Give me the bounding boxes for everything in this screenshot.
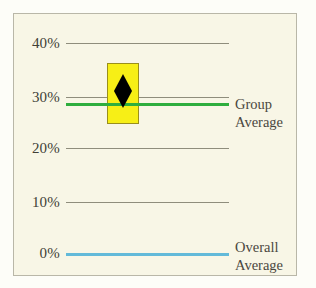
overall-average-label: Overall Average — [235, 239, 283, 274]
gridline-10 — [66, 202, 229, 203]
diamond-lower-half — [114, 91, 132, 108]
group-average-line — [66, 103, 229, 106]
y-axis-label-40: 40% — [14, 36, 60, 51]
chart-panel: 40% 30% 20% 10% 0% Group Average Over — [13, 13, 297, 276]
y-axis-label-20: 20% — [14, 141, 60, 156]
chart-container: 40% 30% 20% 10% 0% Group Average Over — [0, 0, 316, 288]
overall-average-line — [66, 253, 229, 256]
diamond-upper-half — [114, 74, 132, 91]
y-axis-label-30: 30% — [14, 90, 60, 105]
gridline-30 — [66, 97, 229, 98]
plot-area: 40% 30% 20% 10% 0% Group Average Over — [14, 14, 298, 277]
gridline-40 — [66, 43, 229, 44]
group-average-label: Group Average — [235, 96, 283, 131]
gridline-20 — [66, 148, 229, 149]
overall-average-label-line2: Average — [235, 257, 283, 275]
group-average-label-line2: Average — [235, 114, 283, 132]
y-axis-label-0: 0% — [14, 246, 60, 261]
y-axis-label-10: 10% — [14, 195, 60, 210]
group-average-label-line1: Group — [235, 96, 272, 112]
overall-average-label-line1: Overall — [235, 239, 278, 255]
